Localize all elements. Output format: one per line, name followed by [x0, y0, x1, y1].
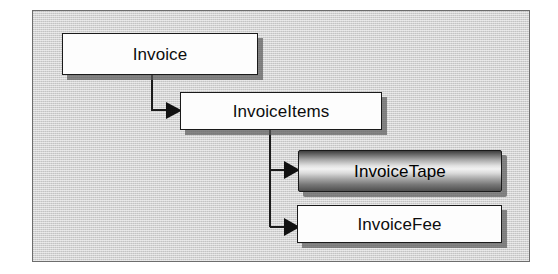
node-invoice-label: Invoice [133, 46, 188, 63]
node-invoicefee[interactable]: InvoiceFee [297, 205, 502, 243]
diagram-canvas: Invoice InvoiceItems InvoiceTape Invoice… [0, 0, 558, 274]
node-invoicefee-label: InvoiceFee [357, 216, 441, 233]
node-invoicetape-label: InvoiceTape [354, 163, 446, 180]
node-invoice[interactable]: Invoice [62, 33, 258, 75]
node-invoicetape[interactable]: InvoiceTape [298, 150, 502, 192]
node-invoiceitems[interactable]: InvoiceItems [180, 92, 382, 130]
node-invoiceitems-label: InvoiceItems [233, 103, 330, 120]
